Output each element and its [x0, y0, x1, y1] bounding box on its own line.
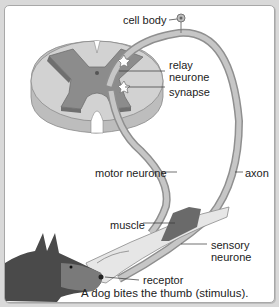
- label-axon: axon: [245, 167, 269, 179]
- label-sensory-neurone-line1: sensory: [211, 239, 250, 251]
- label-motor-neurone: motor neurone: [95, 167, 167, 179]
- label-muscle: muscle: [110, 219, 145, 231]
- label-cell-body: cell body: [123, 14, 166, 26]
- label-relay-neurone-line1: relay: [169, 59, 193, 71]
- label-receptor: receptor: [143, 274, 183, 286]
- label-sensory-neurone-line2: neurone: [211, 251, 251, 263]
- diagram-caption: A dog bites the thumb (stimulus).: [81, 287, 248, 299]
- diagram-panel: cell body relay neurone synapse motor ne…: [4, 5, 275, 303]
- label-synapse: synapse: [169, 86, 210, 98]
- label-relay-neurone-line2: neurone: [169, 71, 209, 83]
